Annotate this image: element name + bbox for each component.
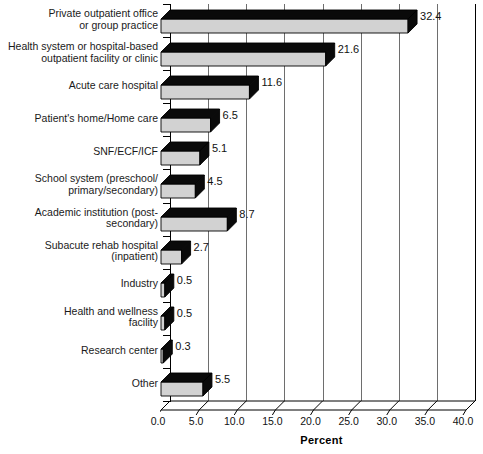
plot-area: 32.421.611.66.55.14.58.72.70.50.50.35.5 … [160,0,483,454]
category-label: School system (preschool/ primary/second… [0,173,158,196]
bar-value-label: 0.5 [177,308,192,319]
category-label: Acute care hospital [0,80,158,92]
category-label: Patient's home/Home care [0,113,158,125]
y-axis-tick [163,302,171,303]
bar [161,340,174,365]
y-axis-tick [163,236,171,237]
bar-value-label: 0.5 [177,275,192,286]
x-tick-label: 30.0 [367,415,407,427]
category-label: Health system or hospital-based outpatie… [0,41,158,64]
x-tick-label: 40.0 [443,415,483,427]
bar-value-label: 5.5 [215,374,230,385]
category-label-column: Private outpatient office or group pract… [0,0,158,400]
bar [161,43,337,68]
y-axis-tick [163,4,171,5]
bar-value-label: 32.4 [420,11,441,22]
category-label: Industry [0,278,158,290]
gridline-35.0 [437,4,438,401]
y-axis-tick [163,269,171,270]
gridline-30.0 [399,4,400,401]
bar-value-label: 21.6 [338,44,359,55]
bar [161,10,419,35]
y-axis-tick [163,368,171,369]
gridline-25.0 [361,4,362,401]
y-axis-tick [163,136,171,137]
bar [161,208,238,233]
y-axis-tick [163,203,171,204]
x-axis-title: Percent [160,434,483,446]
y-axis-tick [163,37,171,38]
x-tick-label: 35.0 [405,415,445,427]
bar [161,142,211,167]
bar [161,76,260,101]
x-tick-label: 15.0 [252,415,292,427]
category-label: Health and wellness facility [0,306,158,329]
bar-value-label: 0.3 [175,341,190,352]
x-tick-label: 5.0 [176,415,216,427]
bar [161,109,222,134]
bar [161,241,193,266]
category-label: Academic institution (post- secondary) [0,207,158,230]
bar-value-label: 6.5 [223,110,238,121]
category-label: Other [0,378,158,390]
y-axis-tick [163,335,171,336]
x-tick-label: 20.0 [291,415,331,427]
category-label: SNF/ECF/ICF [0,146,158,158]
category-label: Private outpatient office or group pract… [0,8,158,31]
y-axis-tick [163,169,171,170]
bar-value-label: 11.6 [261,77,282,88]
x-tick-label: 0.0 [138,415,178,427]
bar-value-label: 5.1 [212,143,227,154]
category-label: Subacute rehab hospital (inpatient) [0,240,158,263]
x-tick-label: 25.0 [329,415,369,427]
bar [161,274,176,299]
bar-value-label: 4.5 [207,176,222,187]
category-label: Research center [0,345,158,357]
bar [161,307,176,332]
y-axis-tick [163,70,171,71]
bar-value-label: 2.7 [194,242,209,253]
chart-figure: Private outpatient office or group pract… [0,0,483,454]
gridline-40.0 [475,4,476,401]
y-axis-tick [163,103,171,104]
bar-value-label: 8.7 [239,209,254,220]
bar [161,175,206,200]
x-tick-label: 10.0 [214,415,254,427]
